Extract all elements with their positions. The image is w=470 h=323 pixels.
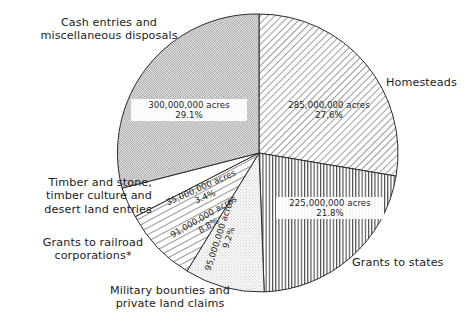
- pie-chart: [0, 0, 470, 323]
- label-homesteads: Homesteads: [386, 76, 466, 89]
- slice-homesteads[interactable]: [259, 14, 398, 176]
- label-military-bounties: Military bounties and private land claim…: [86, 284, 254, 311]
- value-homesteads: 285,000,000 acres 27.6%: [273, 100, 385, 120]
- label-cash-entries: Cash entries and miscellaneous disposals: [18, 16, 200, 43]
- value-cash-entries: 300,000,000 acres 29.1%: [131, 99, 247, 121]
- label-timber-and-stone: Timber and stone, timber culture and des…: [4, 176, 152, 216]
- value-grants-to-states: 225,000,000 acres 21.8%: [276, 197, 384, 219]
- chart-canvas: Cash entries and miscellaneous disposals…: [0, 0, 470, 323]
- label-grants-to-states: Grants to states: [352, 256, 468, 269]
- label-railroad-grants: Grants to railroad corporations*: [28, 236, 158, 263]
- slice-grants-to-states[interactable]: [259, 153, 396, 292]
- pie-slices: [117, 14, 398, 292]
